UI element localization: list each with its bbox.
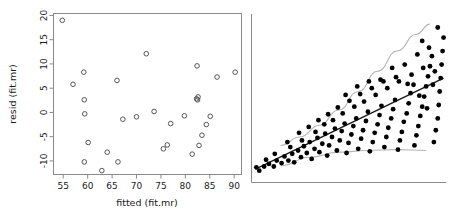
data-point [421, 66, 426, 71]
data-point [304, 151, 309, 156]
data-point [337, 138, 342, 143]
data-point [377, 113, 382, 118]
data-point [334, 148, 339, 153]
figure-container: -10-505101520 5560657075808590 fitted (f… [0, 0, 465, 224]
data-point [264, 157, 269, 162]
data-point [415, 52, 420, 57]
data-point [301, 144, 306, 149]
data-point [372, 130, 377, 135]
data-point [331, 118, 336, 123]
data-point [267, 162, 272, 167]
data-point [362, 99, 367, 104]
data-point [340, 111, 345, 116]
data-point [391, 107, 396, 112]
data-point [425, 106, 430, 111]
data-point [327, 143, 332, 148]
data-point [272, 151, 277, 156]
data-point [292, 160, 297, 165]
data-point [436, 103, 441, 108]
x-tick-label: 85 [204, 181, 215, 191]
data-point [299, 155, 304, 160]
data-point [339, 129, 344, 134]
data-point [300, 138, 305, 143]
data-point [369, 86, 374, 91]
data-point [416, 124, 421, 129]
data-point [315, 135, 320, 140]
data-point [352, 104, 357, 109]
data-point [366, 109, 371, 114]
data-point [439, 62, 444, 67]
data-point [399, 130, 404, 135]
data-point [441, 35, 446, 40]
data-point [282, 154, 287, 159]
data-point [333, 126, 338, 131]
data-point [438, 76, 443, 81]
data-point [356, 146, 361, 151]
y-tick-label: -10 [40, 153, 50, 168]
data-point [296, 148, 301, 153]
y-axis-title: resid (fit.mr) [7, 64, 18, 123]
y-tick-label: 15 [40, 34, 50, 45]
data-point [366, 79, 371, 84]
data-point [396, 147, 401, 152]
data-point [420, 39, 425, 44]
data-point [418, 114, 423, 119]
data-point [285, 140, 290, 145]
data-point [385, 86, 390, 91]
data-point [428, 64, 433, 69]
data-point [320, 141, 325, 146]
data-point [405, 82, 410, 87]
data-point [375, 122, 380, 127]
data-point [370, 140, 375, 145]
data-point [373, 92, 378, 97]
data-point [424, 84, 429, 89]
data-point [440, 49, 445, 54]
y-tick-label: -5 [40, 132, 50, 141]
x-tick-label: 75 [155, 181, 166, 191]
x-tick-label: 60 [82, 181, 94, 191]
data-point [430, 82, 435, 87]
data-point [297, 130, 302, 135]
data-point [307, 140, 312, 145]
data-point [432, 69, 437, 74]
data-point [286, 158, 291, 163]
data-point [316, 118, 321, 123]
data-point [290, 151, 295, 156]
data-point [347, 98, 352, 103]
data-point [367, 149, 372, 154]
data-point [359, 136, 364, 141]
data-point [435, 116, 440, 121]
data-point [384, 135, 389, 140]
data-point [386, 125, 391, 130]
y-tick-label: 0 [40, 109, 50, 115]
data-point [351, 124, 356, 129]
data-point [330, 135, 335, 140]
data-point [404, 111, 409, 116]
data-point [379, 103, 384, 108]
data-point [412, 143, 417, 148]
x-tick-label: 90 [228, 181, 240, 191]
data-point [378, 77, 383, 82]
data-point [346, 141, 351, 146]
data-point [325, 153, 330, 158]
data-point [313, 130, 318, 135]
data-point [288, 145, 293, 150]
data-point [322, 122, 327, 127]
data-point [389, 116, 394, 121]
data-point [433, 128, 438, 133]
data-point [409, 72, 414, 77]
data-point [326, 112, 331, 117]
x-tick-label: 55 [58, 181, 69, 191]
two-panel-plot: -10-505101520 5560657075808590 fitted (f… [0, 0, 465, 224]
y-tick-label: 20 [40, 9, 50, 21]
data-point [344, 151, 349, 156]
data-point [426, 74, 431, 79]
data-point [317, 150, 322, 155]
data-point [435, 25, 440, 30]
data-point [398, 138, 403, 143]
x-tick-label: 80 [180, 181, 192, 191]
data-point [279, 161, 284, 166]
data-point [417, 93, 422, 98]
data-point [309, 157, 314, 162]
data-point [408, 91, 413, 96]
